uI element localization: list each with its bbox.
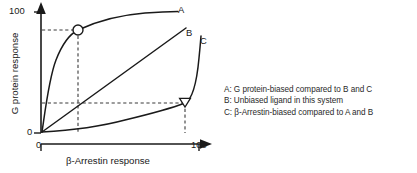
figure-root: 100 0 0 100 β-Arrestin response G protei…: [0, 0, 417, 173]
legend-entry-b: B: Unbiased ligand in this system: [224, 95, 414, 106]
x-axis: [41, 139, 212, 151]
curve-c: [42, 36, 201, 132]
y-tick-label-0: 0: [27, 126, 32, 137]
x-axis-label: β-Arrestin response: [66, 155, 150, 166]
curve-label-c: C: [200, 35, 207, 46]
x-tick-label-0: 0: [36, 139, 41, 150]
y-tick-label-100: 100: [9, 5, 25, 16]
curve-label-a: A: [178, 4, 184, 15]
marker-circle-curve-a: [73, 25, 83, 35]
x-tick-label-100: 100: [191, 139, 207, 150]
curve-label-b: B: [186, 27, 192, 38]
legend: A: G protein-biased compared to B and C …: [224, 84, 414, 118]
legend-entry-c: C: β-Arrestin-biased compared to A and B: [224, 107, 414, 118]
legend-entry-a: A: G protein-biased compared to B and C: [224, 84, 414, 95]
y-axis-label: G protein response: [9, 19, 20, 129]
